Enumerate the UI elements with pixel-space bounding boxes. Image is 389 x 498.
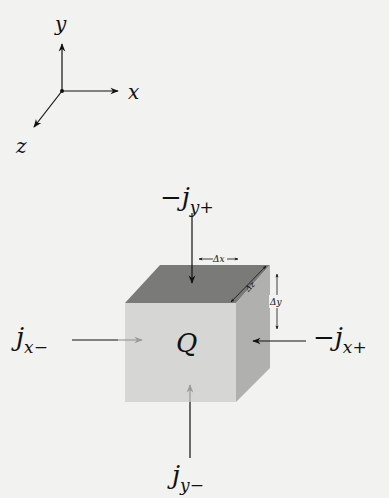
x-axis-label: x — [128, 80, 139, 104]
z-axis-arrow — [34, 91, 62, 127]
y-axis-label: y — [54, 12, 67, 36]
flux-diagram: y x z Q Δx Δz Δy −jy+ jx− −jx+ jy− — [0, 0, 389, 498]
origin-dot — [60, 89, 64, 93]
flux-top-label: −jy+ — [160, 182, 214, 217]
flux-bottom-label: jy− — [167, 460, 204, 495]
flux-left-label: jx− — [11, 322, 48, 357]
dy-label: Δy — [269, 297, 282, 307]
coordinate-axes: y x z — [15, 12, 139, 158]
z-axis-label: z — [15, 134, 27, 158]
flux-right-label: −jx+ — [313, 322, 367, 357]
cube-quantity-label: Q — [176, 328, 197, 358]
dx-label: Δx — [212, 254, 225, 264]
